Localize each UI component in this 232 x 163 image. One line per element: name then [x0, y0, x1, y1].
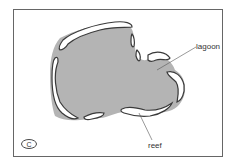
panel-label: C [26, 141, 31, 148]
lagoon-label: lagoon [196, 42, 220, 51]
reef-label: reef [148, 141, 163, 150]
atoll-diagram: lagoon reef C [0, 0, 232, 163]
